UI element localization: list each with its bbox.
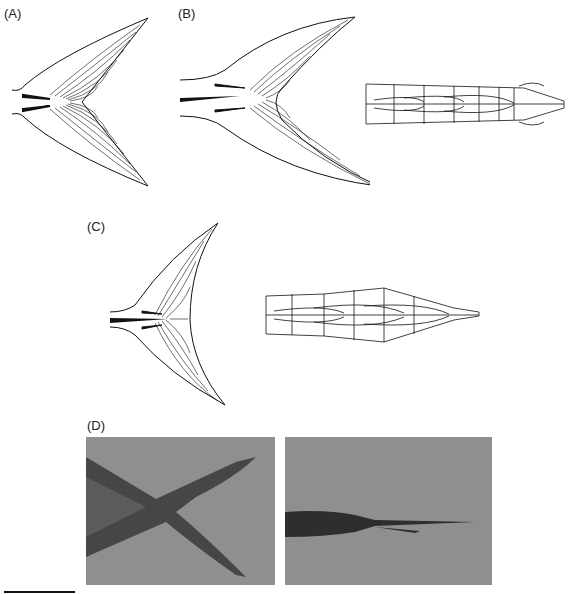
scale-bar [4,591,75,593]
panel-b-fin-drawing [170,0,370,195]
panel-c-fin-drawing [100,215,230,415]
panel-b-skeleton-drawing [364,78,569,133]
panel-label-d: (D) [87,418,105,433]
photo-caudal-peduncle-dorsal [285,437,492,585]
photo-caudal-fin-lateral [86,437,275,585]
panel-c-skeleton-drawing [264,286,484,346]
panel-a-fin-drawing [0,0,175,195]
